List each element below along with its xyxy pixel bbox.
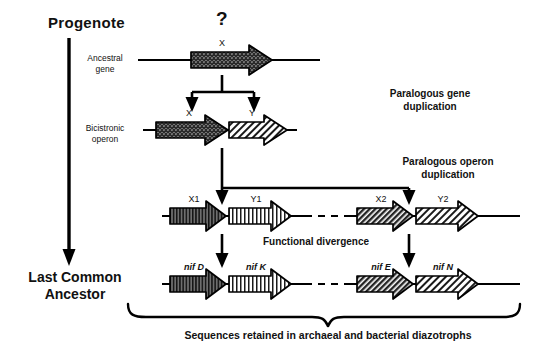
annotation-operon-duplication-line1: Paralogous operon	[402, 156, 493, 167]
unknown-origin-marker: ?	[216, 8, 228, 30]
timeline-label-lca-line1: Last Common	[28, 269, 121, 285]
gene-label-y1: Y1	[250, 194, 261, 204]
gene-label-y-bicistronic: Y	[249, 108, 255, 118]
annotation-gene-duplication-line1: Paralogous gene	[390, 88, 471, 99]
figure-canvas: Progenote ? Ancestral gene Bicistronic o…	[0, 0, 538, 347]
caption-brace	[128, 304, 520, 326]
gene-label-x1: X1	[188, 194, 199, 204]
gene-arrow-y2	[416, 201, 478, 231]
gene-arrow-nif-n	[416, 269, 478, 299]
gene-arrow-x1	[170, 201, 226, 231]
gene-duplication-fork	[186, 75, 261, 112]
page-title-progenote: Progenote	[48, 14, 125, 31]
gene-label-x-bicistronic: X	[186, 108, 192, 118]
annotation-gene-duplication-line2: duplication	[403, 101, 456, 112]
gene-arrow-x-bicistronic	[156, 115, 228, 145]
row-label-ancestral-gene-line2: gene	[96, 64, 115, 74]
timeline-label-lca-line2: Ancestor	[45, 286, 106, 302]
annotation-operon-duplication-line2: duplication	[421, 169, 474, 180]
row-label-bicistronic-operon-line1: Bicistronic	[86, 123, 125, 133]
gene-arrow-x2	[357, 201, 413, 231]
gene-label-x2: X2	[375, 194, 386, 204]
gene-label-nif-k: nif K	[246, 262, 266, 272]
gene-arrow-nif-d	[170, 269, 226, 299]
gene-label-x-ancestral: X	[219, 38, 225, 48]
time-axis-arrow	[63, 38, 76, 266]
figure-caption: Sequences retained in archaeal and bacte…	[184, 329, 471, 341]
row-label-bicistronic-operon-line2: operon	[92, 134, 118, 144]
gene-label-nif-e: nif E	[371, 262, 391, 272]
gene-label-nif-n: nif N	[433, 262, 453, 272]
gene-arrow-y-bicistronic	[229, 115, 287, 145]
row-label-ancestral-gene-line1: Ancestral	[87, 53, 122, 63]
gene-arrow-nif-e	[357, 269, 413, 299]
gene-arrow-x-ancestral	[191, 45, 272, 75]
gene-arrow-y1	[229, 201, 291, 231]
annotation-functional-divergence: Functional divergence	[263, 236, 369, 247]
gene-arrow-nif-k	[229, 269, 291, 299]
gene-label-y2: Y2	[437, 194, 448, 204]
gene-label-nif-d: nif D	[184, 262, 204, 272]
